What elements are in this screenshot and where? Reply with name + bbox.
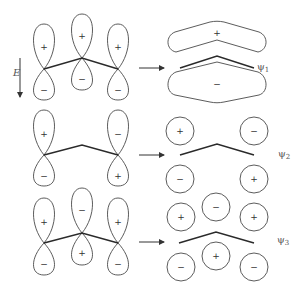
sign-label: + bbox=[40, 129, 48, 139]
sign-label: + bbox=[177, 212, 185, 222]
sign-label: + bbox=[40, 217, 48, 227]
sign-label: − bbox=[114, 85, 122, 95]
p-orbital: + − bbox=[34, 110, 55, 186]
sign-label: + bbox=[250, 212, 258, 222]
p-orbital: − + bbox=[72, 188, 93, 265]
allyl-skeleton bbox=[179, 232, 254, 243]
sign-label: − bbox=[114, 129, 122, 139]
p-orbital: + − bbox=[108, 198, 129, 275]
energy-axis: E bbox=[12, 58, 21, 97]
p-orbital: + − bbox=[34, 24, 55, 100]
sign-label: + bbox=[213, 28, 221, 38]
p-orbital: − + bbox=[108, 110, 129, 186]
sign-label: + bbox=[176, 126, 184, 136]
p-orbital: + − bbox=[34, 198, 55, 275]
p-orbital: + − bbox=[108, 24, 129, 100]
sign-label: − bbox=[213, 79, 221, 89]
sign-label: + bbox=[114, 42, 122, 52]
energy-axis-label: E bbox=[12, 67, 21, 78]
sign-label: − bbox=[114, 259, 122, 269]
sign-label: + bbox=[78, 248, 86, 258]
sign-label: − bbox=[177, 262, 185, 272]
allyl-mo-diagram: E + − + − + − + − ψ1 bbox=[0, 0, 300, 293]
row-psi3: + − − + + − + − + − + − ψ3 bbox=[34, 188, 290, 281]
row-psi1: + − + − + − + − ψ1 bbox=[34, 14, 270, 103]
sign-label: − bbox=[250, 262, 258, 272]
sign-label: − bbox=[176, 174, 184, 184]
sign-label: + bbox=[114, 171, 122, 181]
sign-label: − bbox=[40, 259, 48, 269]
sign-label: − bbox=[40, 171, 48, 181]
mo-label-psi3: ψ3 bbox=[277, 234, 289, 247]
p-orbital: + − bbox=[72, 14, 93, 90]
row-psi2: + − − + + − − + ψ2 bbox=[34, 110, 291, 193]
sign-label: − bbox=[40, 85, 48, 95]
allyl-skeleton bbox=[44, 145, 118, 155]
sign-label: − bbox=[78, 74, 86, 84]
sign-label: − bbox=[250, 126, 258, 136]
sign-label: + bbox=[212, 251, 220, 261]
sign-label: − bbox=[78, 205, 86, 215]
sign-label: + bbox=[78, 31, 86, 41]
allyl-skeleton bbox=[180, 144, 254, 155]
sign-label: + bbox=[250, 174, 258, 184]
sign-label: + bbox=[114, 217, 122, 227]
sign-label: − bbox=[212, 202, 220, 212]
mo-label-psi2: ψ2 bbox=[278, 148, 290, 161]
sign-label: + bbox=[40, 42, 48, 52]
